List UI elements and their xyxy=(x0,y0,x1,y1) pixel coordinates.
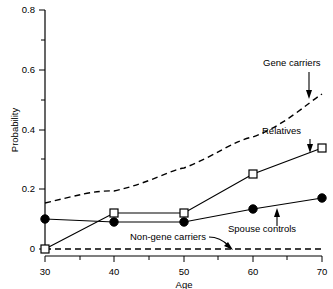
x-axis xyxy=(45,256,322,262)
y-axis-title: Probability xyxy=(9,108,20,153)
y-axis-label-0.6: 0.6 xyxy=(22,64,35,75)
x-axis-label-40: 40 xyxy=(109,266,120,277)
annotation-label-non-gene-carriers: Non-gene carriers xyxy=(130,231,206,242)
data-point-relatives-40 xyxy=(110,209,118,217)
annotation-label-spouse-controls: Spouse controls xyxy=(228,223,296,234)
x-axis-title: Age xyxy=(176,279,193,289)
annotation-label-relatives: Relatives xyxy=(262,125,301,136)
x-axis-label-50: 50 xyxy=(179,266,190,277)
x-axis-label-60: 60 xyxy=(248,266,259,277)
data-point-spouse-controls-40 xyxy=(110,218,118,226)
data-point-relatives-70 xyxy=(318,144,326,152)
data-point-relatives-50 xyxy=(180,209,188,217)
annotation-arrow-relatives xyxy=(307,139,313,153)
y-axis xyxy=(39,10,45,249)
data-point-spouse-controls-70 xyxy=(318,194,326,202)
x-axis-label-30: 30 xyxy=(40,266,51,277)
y-axis-label-0.2: 0.2 xyxy=(22,183,35,194)
data-point-spouse-controls-30 xyxy=(41,215,49,223)
data-point-relatives-30 xyxy=(41,245,49,253)
y-axis-label-0: 0 xyxy=(30,243,35,254)
probability-by-age-line-chart: 0.8 0.6 0.4 0.2 0 30 40 50 60 70 Probabi… xyxy=(0,0,333,289)
annotation-arrow-gene-carriers xyxy=(306,72,312,99)
y-axis-label-0.8: 0.8 xyxy=(22,4,35,15)
annotation-label-gene-carriers: Gene carriers xyxy=(263,57,321,68)
annotation-arrow-non-gene-carriers xyxy=(209,237,233,250)
chart-figure: 0.8 0.6 0.4 0.2 0 30 40 50 60 70 Probabi… xyxy=(0,0,333,289)
data-point-spouse-controls-60 xyxy=(249,205,257,213)
data-point-spouse-controls-50 xyxy=(180,218,188,226)
x-axis-label-70: 70 xyxy=(317,266,328,277)
series-line-gene-carriers xyxy=(45,94,322,203)
y-axis-label-0.4: 0.4 xyxy=(22,124,35,135)
data-point-relatives-60 xyxy=(249,170,257,178)
